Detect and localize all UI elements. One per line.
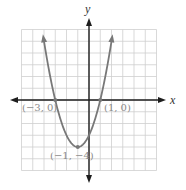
x-intercept-right-label: (1, 0) [104,102,131,113]
x-axis-right-arrow-icon [158,97,166,103]
x-axis-label: x [169,93,176,107]
y-axis-bottom-arrow-icon [86,175,92,183]
x-intercept-point [98,98,102,102]
x-intercept-left-label: (−3, 0) [22,102,57,113]
vertex-label: (−1, −4) [50,150,94,161]
x-axis-left-arrow-icon [10,97,18,103]
y-axis-top-arrow-icon [86,18,92,26]
parabola-graph: x y (−3, 0) (1, 0) (−1, −4) [0,0,186,190]
vertex-point [76,145,80,149]
y-axis-label: y [84,2,91,16]
